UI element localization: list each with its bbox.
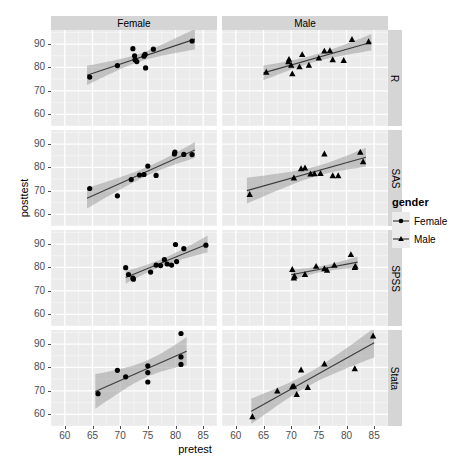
panel-canvas	[222, 330, 388, 426]
confidence-band	[95, 337, 186, 409]
legend: gender Female Male	[392, 196, 447, 248]
panel-stata-female	[51, 330, 217, 426]
data-point	[348, 251, 354, 257]
panel-spss-male	[222, 230, 388, 326]
panel-canvas	[222, 130, 388, 226]
x-tick-label: 85	[363, 431, 385, 441]
data-point	[203, 243, 208, 248]
chart-root: posttest pretest FemaleMaleRSASSPSSStata…	[0, 0, 455, 467]
panel-sas-male	[222, 130, 388, 226]
panel-sas-female	[51, 130, 217, 226]
x-tick-label: 70	[280, 431, 302, 441]
x-tick-mark	[236, 426, 237, 429]
data-point	[181, 246, 186, 251]
y-tick-label: 70	[18, 186, 45, 196]
x-tick-label: 60	[225, 431, 247, 441]
data-point	[289, 266, 295, 272]
data-point	[172, 150, 177, 155]
data-point	[321, 48, 327, 54]
data-point	[178, 331, 183, 336]
y-tick-label: 80	[18, 262, 45, 272]
data-point	[130, 46, 135, 51]
y-tick-label: 60	[18, 109, 45, 119]
data-point	[352, 365, 358, 371]
panel-canvas	[51, 230, 217, 326]
panel-canvas	[51, 30, 217, 126]
legend-item-female[interactable]: Female	[392, 212, 447, 230]
y-tick-label: 90	[18, 39, 45, 49]
data-point	[154, 263, 159, 268]
x-tick-mark	[347, 426, 348, 429]
data-point	[349, 36, 355, 42]
x-tick-mark	[291, 426, 292, 429]
data-point	[148, 270, 153, 275]
data-point	[289, 70, 295, 76]
x-tick-mark	[120, 426, 121, 429]
data-point	[321, 151, 327, 157]
strip-right-stata: Stata	[388, 330, 402, 426]
panel-spss-female	[51, 230, 217, 326]
legend-label-male: Male	[414, 234, 436, 245]
legend-key-triangle-icon	[392, 230, 410, 248]
data-point	[95, 391, 100, 396]
y-tick-label: 90	[18, 139, 45, 149]
panel-r-female	[51, 30, 217, 126]
x-axis-title: pretest	[0, 443, 390, 455]
y-tick-label: 80	[18, 162, 45, 172]
x-tick-label: 80	[165, 431, 187, 441]
x-tick-label: 60	[54, 431, 76, 441]
data-point	[162, 257, 167, 262]
y-tick-label: 80	[18, 362, 45, 372]
data-point	[145, 379, 150, 384]
strip-right-r: R	[388, 30, 402, 126]
y-tick-label: 70	[18, 286, 45, 296]
strip-right-label: SPSS	[390, 265, 401, 292]
y-tick-label: 90	[18, 339, 45, 349]
panel-canvas	[222, 230, 388, 326]
y-tick-label: 60	[18, 209, 45, 219]
regression-line	[95, 351, 186, 391]
x-tick-mark	[319, 426, 320, 429]
strip-top-female: Female	[51, 16, 217, 30]
x-tick-mark	[374, 426, 375, 429]
legend-item-male[interactable]: Male	[392, 230, 447, 248]
data-point	[134, 59, 139, 64]
x-tick-mark	[264, 426, 265, 429]
strip-right-label: Stata	[390, 366, 401, 389]
data-point	[145, 370, 150, 375]
y-tick-label: 80	[18, 62, 45, 72]
data-point	[151, 47, 156, 52]
data-point	[154, 173, 159, 178]
data-point	[330, 172, 336, 178]
regression-line	[251, 343, 374, 412]
data-point	[178, 362, 183, 367]
x-tick-label: 65	[82, 431, 104, 441]
y-tick-label: 60	[18, 409, 45, 419]
panel-canvas	[222, 30, 388, 126]
strip-right-label: R	[389, 74, 400, 81]
data-point	[87, 75, 92, 80]
x-tick-mark	[176, 426, 177, 429]
x-tick-mark	[148, 426, 149, 429]
data-point	[165, 261, 170, 266]
data-point	[174, 259, 179, 264]
data-point	[115, 193, 120, 198]
data-point	[335, 172, 341, 178]
panel-stata-male	[222, 330, 388, 426]
strip-right-label: SAS	[390, 168, 401, 188]
strip-top-male: Male	[222, 16, 388, 30]
x-tick-mark	[93, 426, 94, 429]
y-tick-label: 90	[18, 239, 45, 249]
panel-r-male	[222, 30, 388, 126]
data-point	[137, 172, 142, 177]
regression-line	[247, 157, 366, 190]
data-point	[143, 52, 148, 57]
data-point	[115, 63, 120, 68]
data-point	[299, 51, 305, 57]
data-point	[123, 374, 128, 379]
data-point	[126, 272, 131, 277]
confidence-band	[247, 148, 366, 204]
data-point	[115, 368, 120, 373]
panel-canvas	[51, 130, 217, 226]
data-point	[131, 277, 136, 282]
